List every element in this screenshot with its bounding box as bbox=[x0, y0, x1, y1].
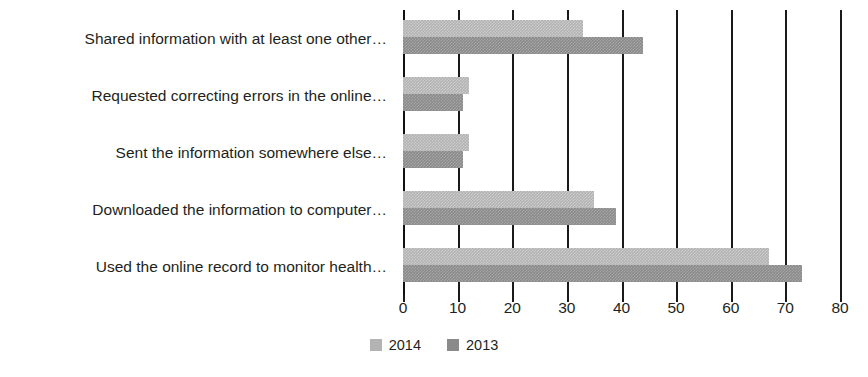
legend-swatch-icon bbox=[447, 339, 459, 351]
bar-2014 bbox=[403, 191, 594, 208]
x-tick-label: 20 bbox=[490, 299, 534, 317]
legend-swatch-icon bbox=[370, 339, 382, 351]
bar-2013 bbox=[403, 37, 643, 54]
bar-group bbox=[403, 124, 840, 181]
x-tick-label: 40 bbox=[600, 299, 644, 317]
bar-group bbox=[403, 67, 840, 124]
legend-item-2013[interactable]: 2013 bbox=[447, 337, 498, 353]
x-tick-label: 0 bbox=[381, 299, 425, 317]
bar-2013 bbox=[403, 151, 463, 168]
bar-group bbox=[403, 181, 840, 238]
category-label: Shared information with at least one oth… bbox=[0, 10, 395, 67]
x-tick-label: 70 bbox=[763, 299, 807, 317]
plot-area bbox=[403, 10, 840, 295]
category-label: Used the online record to monitor health… bbox=[0, 238, 395, 295]
bar-2013 bbox=[403, 265, 802, 282]
bar-group bbox=[403, 238, 840, 295]
category-label: Requested correcting errors in the onlin… bbox=[0, 67, 395, 124]
legend-item-2014[interactable]: 2014 bbox=[370, 337, 421, 353]
bar-2014 bbox=[403, 134, 469, 151]
category-label: Sent the information somewhere else… bbox=[0, 124, 395, 181]
bar-rows bbox=[403, 10, 840, 295]
x-tick-label: 10 bbox=[436, 299, 480, 317]
legend-label: 2013 bbox=[466, 337, 498, 353]
x-tick-label: 30 bbox=[545, 299, 589, 317]
x-tick-label: 50 bbox=[654, 299, 698, 317]
category-label-column: Shared information with at least one oth… bbox=[0, 10, 395, 295]
bar-2013 bbox=[403, 94, 463, 111]
chart-legend: 20142013 bbox=[0, 337, 868, 353]
x-tick-label: 80 bbox=[818, 299, 862, 317]
bar-2014 bbox=[403, 77, 469, 94]
legend-label: 2014 bbox=[389, 337, 421, 353]
x-tick-label: 60 bbox=[709, 299, 753, 317]
bar-group bbox=[403, 10, 840, 67]
bar-2014 bbox=[403, 248, 769, 265]
gridline-80 bbox=[840, 10, 842, 295]
bar-2014 bbox=[403, 20, 583, 37]
category-label: Downloaded the information to computer… bbox=[0, 181, 395, 238]
bar-2013 bbox=[403, 208, 616, 225]
bar-chart: Shared information with at least one oth… bbox=[0, 0, 868, 377]
